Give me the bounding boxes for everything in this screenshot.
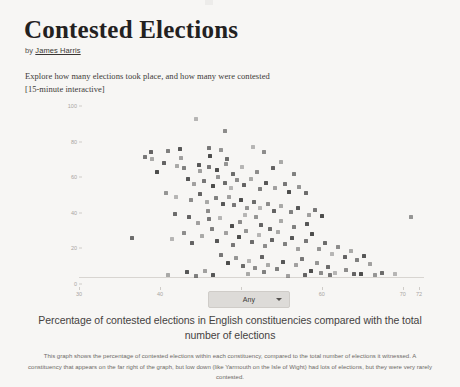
data-point[interactable] — [254, 215, 258, 219]
data-point[interactable] — [208, 154, 212, 158]
data-point[interactable] — [185, 270, 189, 274]
data-point[interactable] — [252, 200, 256, 204]
data-point[interactable] — [359, 272, 363, 276]
data-point[interactable] — [215, 168, 219, 172]
data-point[interactable] — [232, 203, 236, 207]
plot-area[interactable] — [79, 99, 419, 277]
data-point[interactable] — [272, 209, 276, 213]
data-point[interactable] — [292, 225, 296, 229]
data-point[interactable] — [336, 245, 340, 249]
data-point[interactable] — [174, 195, 178, 199]
data-point[interactable] — [170, 237, 174, 241]
data-point[interactable] — [305, 222, 309, 226]
data-point[interactable] — [296, 247, 300, 251]
data-point[interactable] — [349, 249, 353, 253]
data-point[interactable] — [225, 157, 229, 161]
data-point[interactable] — [294, 263, 298, 267]
data-point[interactable] — [262, 270, 266, 274]
data-point[interactable] — [200, 234, 204, 238]
data-point[interactable] — [313, 208, 317, 212]
filter-dropdown[interactable]: Any — [208, 291, 290, 308]
data-point[interactable] — [206, 209, 210, 213]
data-point[interactable] — [319, 271, 323, 275]
data-point[interactable] — [409, 215, 413, 219]
data-point[interactable] — [300, 257, 304, 261]
data-point[interactable] — [270, 238, 274, 242]
data-point[interactable] — [205, 200, 209, 204]
data-point[interactable] — [304, 239, 308, 243]
data-point[interactable] — [190, 241, 194, 245]
data-point[interactable] — [315, 261, 319, 265]
data-point[interactable] — [223, 129, 227, 133]
data-point[interactable] — [247, 259, 251, 263]
data-point[interactable] — [175, 164, 179, 168]
data-point[interactable] — [189, 198, 193, 202]
data-point[interactable] — [266, 263, 270, 267]
data-point[interactable] — [216, 175, 220, 179]
data-point[interactable] — [214, 196, 218, 200]
data-point[interactable] — [289, 210, 293, 214]
data-point[interactable] — [230, 224, 234, 228]
data-point[interactable] — [255, 170, 259, 174]
data-point[interactable] — [224, 162, 228, 166]
data-point[interactable] — [290, 236, 294, 240]
data-point[interactable] — [273, 186, 277, 190]
data-point[interactable] — [283, 182, 287, 186]
data-point[interactable] — [362, 254, 366, 258]
data-point[interactable] — [238, 220, 242, 224]
data-point[interactable] — [307, 213, 311, 217]
data-point[interactable] — [330, 252, 334, 256]
data-point[interactable] — [219, 148, 223, 152]
data-point[interactable] — [229, 186, 233, 190]
data-point[interactable] — [231, 172, 235, 176]
data-point[interactable] — [271, 166, 275, 170]
data-point[interactable] — [344, 268, 348, 272]
data-point[interactable] — [246, 272, 250, 276]
data-point[interactable] — [237, 235, 241, 239]
data-point[interactable] — [215, 239, 219, 243]
data-point[interactable] — [323, 241, 327, 245]
author-link[interactable]: James Harris — [35, 46, 80, 55]
data-point[interactable] — [198, 169, 202, 173]
data-point[interactable] — [333, 271, 337, 275]
data-point[interactable] — [231, 243, 235, 247]
data-point[interactable] — [182, 166, 186, 170]
data-point[interactable] — [219, 253, 223, 257]
data-point[interactable] — [235, 178, 239, 182]
data-point[interactable] — [178, 147, 182, 151]
data-point[interactable] — [164, 191, 168, 195]
data-point[interactable] — [143, 155, 147, 159]
data-point[interactable] — [263, 244, 267, 248]
data-point[interactable] — [268, 227, 272, 231]
data-point[interactable] — [264, 181, 268, 185]
data-point[interactable] — [227, 195, 231, 199]
data-point[interactable] — [239, 198, 243, 202]
data-point[interactable] — [393, 272, 397, 276]
data-point[interactable] — [343, 255, 347, 259]
data-point[interactable] — [287, 190, 291, 194]
data-point[interactable] — [258, 206, 262, 210]
data-point[interactable] — [355, 258, 359, 262]
data-point[interactable] — [310, 232, 314, 236]
data-point[interactable] — [257, 233, 261, 237]
data-point[interactable] — [296, 206, 300, 210]
data-point[interactable] — [211, 184, 215, 188]
data-point[interactable] — [149, 150, 153, 154]
data-point[interactable] — [279, 204, 283, 208]
data-point[interactable] — [202, 179, 206, 183]
data-point[interactable] — [276, 230, 280, 234]
data-point[interactable] — [317, 247, 321, 251]
data-point[interactable] — [197, 163, 201, 167]
data-point[interactable] — [150, 157, 154, 161]
data-point[interactable] — [173, 212, 177, 216]
data-point[interactable] — [192, 182, 196, 186]
data-point[interactable] — [203, 269, 207, 273]
data-point[interactable] — [234, 256, 238, 260]
data-point[interactable] — [221, 202, 225, 206]
data-point[interactable] — [179, 156, 183, 160]
data-point[interactable] — [162, 161, 166, 165]
data-point[interactable] — [259, 223, 263, 227]
data-point[interactable] — [251, 145, 255, 149]
data-point[interactable] — [186, 177, 190, 181]
data-point[interactable] — [250, 240, 254, 244]
